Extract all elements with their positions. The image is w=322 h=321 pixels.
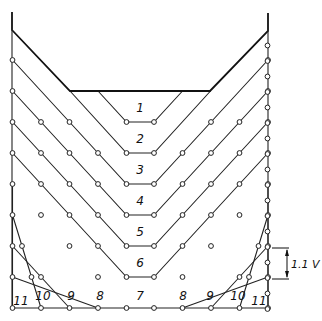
trough-outline [12,13,268,91]
equipotential-diagram: 1 2 3 4 5 6 7 8 9 10 11 8 9 10 11 1.1 V [0,0,322,321]
node-marker [124,213,129,218]
node-marker [124,151,129,156]
node-marker [265,167,270,172]
node-marker [237,306,242,311]
node-marker [265,152,270,157]
node-marker [265,74,270,79]
region-label-10-left: 10 [35,289,51,303]
node-marker [124,182,129,187]
node-marker [265,260,270,265]
node-marker [152,213,157,218]
dimension-bracket: 1.1 V [272,248,321,279]
node-marker [96,306,101,311]
node-marker [20,244,25,249]
node-marker [209,306,214,311]
region-label-4: 4 [136,194,144,208]
node-marker [180,275,185,280]
node-marker [39,120,44,125]
node-markers [10,43,270,311]
node-marker [10,58,15,63]
node-marker [180,151,185,156]
node-marker [152,275,157,280]
node-marker [96,244,101,249]
node-marker [209,120,214,125]
region-label-6: 6 [136,256,144,270]
node-marker [96,182,101,187]
node-marker [265,229,270,234]
node-marker [152,306,157,311]
region-label-8-right: 8 [179,289,187,303]
node-marker [265,136,270,141]
node-marker [265,214,270,219]
node-marker [256,244,261,249]
node-marker [10,151,15,156]
node-marker [209,213,214,218]
node-marker [265,121,270,126]
node-marker [10,182,15,187]
region-label-11-left: 11 [13,294,28,308]
node-marker [265,43,270,48]
node-marker [10,244,15,249]
node-marker [247,275,252,280]
node-marker [39,213,44,218]
node-marker [237,151,242,156]
region-label-7: 7 [136,289,144,303]
region-label-9-left: 9 [67,289,75,303]
node-marker [237,275,242,280]
node-marker [180,306,185,311]
node-marker [67,213,72,218]
node-marker [209,244,214,249]
node-marker [10,275,15,280]
node-marker [265,59,270,64]
node-marker [29,275,34,280]
node-marker [96,275,101,280]
node-marker [39,151,44,156]
node-marker [265,183,270,188]
node-marker [237,213,242,218]
node-marker [152,182,157,187]
node-marker [67,244,72,249]
node-marker [96,151,101,156]
region-label-3: 3 [136,163,144,177]
node-marker [265,198,270,203]
region-label-9-right: 9 [206,289,214,303]
node-marker [124,306,129,311]
node-marker [124,120,129,125]
equipotential-lines [13,60,269,308]
node-marker [10,89,15,94]
node-marker [180,244,185,249]
node-marker [237,120,242,125]
node-marker [180,182,185,187]
node-marker [152,244,157,249]
region-label-5: 5 [136,225,144,239]
node-marker [265,245,270,250]
node-marker [209,151,214,156]
node-marker [67,120,72,125]
region-label-10-right: 10 [230,289,246,303]
arrow-down-icon [285,271,289,278]
node-marker [237,182,242,187]
dimension-label: 1.1 V [291,258,321,271]
node-marker [152,151,157,156]
node-marker [209,182,214,187]
region-label-8-left: 8 [96,289,104,303]
node-marker [67,306,72,311]
arrow-up-icon [285,249,289,256]
region-label-1: 1 [136,101,144,115]
node-marker [96,213,101,218]
region-label-11-right: 11 [251,294,266,308]
region-label-2: 2 [136,132,144,146]
node-marker [265,90,270,95]
node-marker [10,213,15,218]
node-marker [152,120,157,125]
node-marker [39,275,44,280]
node-marker [10,120,15,125]
node-marker [180,213,185,218]
node-marker [39,182,44,187]
node-marker [265,276,270,281]
node-marker [67,182,72,187]
node-marker [265,105,270,110]
node-marker [124,275,129,280]
node-marker [67,151,72,156]
node-marker [39,306,44,311]
